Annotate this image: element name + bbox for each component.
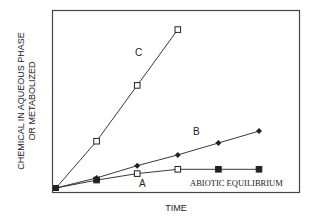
- marker-b-4: [215, 140, 221, 146]
- label-a: A: [139, 178, 146, 189]
- series-markers: [53, 27, 262, 191]
- marker-a-1: [94, 177, 100, 183]
- label-b: B: [193, 126, 200, 137]
- marker-b-5: [256, 128, 262, 134]
- chart: C B A ABIOTIC EQUILIBRIUM TIME CHEMICAL …: [0, 0, 316, 220]
- y-axis-label: CHEMICAL IN AQUEOUS PHASE OR METABOLIZED: [16, 32, 37, 170]
- svg-text:OR METABOLIZED: OR METABOLIZED: [27, 61, 37, 140]
- series-lines: [56, 30, 259, 188]
- marker-a-0: [53, 185, 59, 191]
- label-abiotic-equilibrium: ABIOTIC EQUILIBRIUM: [190, 178, 283, 188]
- svg-text:CHEMICAL IN AQUEOUS PHASE: CHEMICAL IN AQUEOUS PHASE: [16, 32, 26, 170]
- marker-a-2: [134, 171, 140, 177]
- marker-c-1: [94, 138, 100, 144]
- series-line-c: [56, 30, 178, 188]
- marker-b-3: [175, 152, 181, 158]
- x-axis-label: TIME: [165, 203, 187, 213]
- marker-c-2: [134, 83, 140, 89]
- plot-frame: [53, 11, 300, 193]
- marker-b-2: [134, 163, 140, 169]
- marker-a-5: [256, 166, 262, 172]
- marker-a-4: [216, 166, 222, 172]
- label-c: C: [135, 47, 142, 58]
- marker-a-3: [175, 166, 181, 172]
- marker-c-3: [175, 27, 181, 33]
